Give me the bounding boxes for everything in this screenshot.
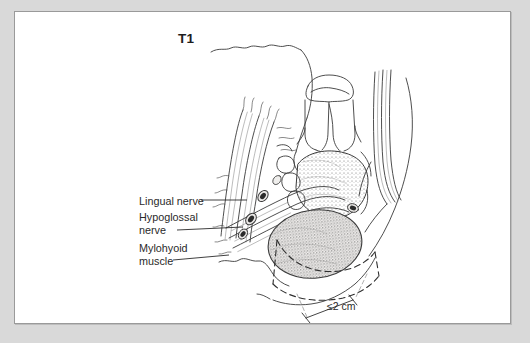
stage-label: T1 [178, 31, 194, 46]
annotation-lingual-nerve: Lingual nerve [139, 195, 204, 208]
figure-root: T1 Lingual nerve Hypoglossal nerve Myloh… [0, 0, 530, 343]
measurement-label: ≤2 cm [327, 300, 356, 312]
annotation-hypoglossal-nerve: Hypoglossal nerve [139, 211, 198, 237]
mandible-tooth-crown [297, 75, 361, 152]
figure-panel: T1 Lingual nerve Hypoglossal nerve Myloh… [14, 11, 511, 324]
anatomical-illustration [15, 12, 510, 323]
annotation-mylohyoid-muscle: Mylohyoid muscle [139, 242, 188, 268]
lingual-nerve-cross-section [256, 188, 271, 203]
